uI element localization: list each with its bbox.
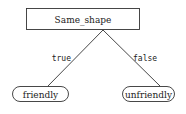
leaf-node-unfriendly: unfriendly bbox=[123, 87, 175, 102]
leaf-node-unfriendly-label: unfriendly bbox=[125, 90, 173, 100]
root-node: Same_shape bbox=[27, 9, 140, 30]
leaf-node-friendly: friendly bbox=[13, 87, 69, 102]
leaf-node-friendly-label: friendly bbox=[23, 90, 59, 100]
edge-true-label: true bbox=[52, 54, 71, 63]
edge-false-label: false bbox=[133, 54, 157, 63]
root-node-label: Same_shape bbox=[55, 15, 112, 26]
decision-tree-diagram: Same_shape true false friendly unfriendl… bbox=[0, 0, 186, 114]
